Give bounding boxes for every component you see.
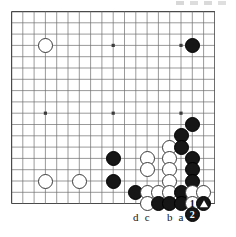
stone-white[interactable] <box>140 162 155 177</box>
coordinate-label-d: d <box>130 211 142 223</box>
top-edge-artifact <box>174 0 234 6</box>
stone-white[interactable] <box>72 174 87 189</box>
go-board[interactable]: 1 <box>11 11 215 204</box>
go-diagram: 1 dcba 2 <box>0 0 236 237</box>
stone-black[interactable] <box>185 38 200 53</box>
stone-black[interactable] <box>106 151 121 166</box>
stone-white[interactable] <box>38 38 53 53</box>
coordinate-label-c: c <box>141 211 153 223</box>
move-number-label: 2 <box>186 208 199 221</box>
triangle-marker-icon <box>200 200 208 207</box>
stone-black[interactable] <box>106 174 121 189</box>
stone-white[interactable] <box>38 174 53 189</box>
move-marker-stone-2[interactable]: 2 <box>185 207 200 222</box>
coordinate-label-b: b <box>164 211 176 223</box>
